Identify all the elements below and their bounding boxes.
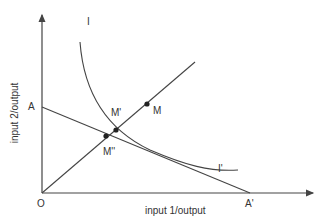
- point-m-prime: [113, 127, 118, 132]
- isoquant-diagram: I I' A A' O M M' M'' input 1/output inpu…: [0, 0, 321, 221]
- label-a: A: [28, 101, 35, 112]
- label-m-prime: M': [111, 107, 121, 118]
- label-isoquant-bottom: I': [218, 163, 223, 174]
- label-origin: O: [37, 198, 45, 209]
- label-m: M: [153, 105, 161, 116]
- label-isoquant-top: I: [87, 16, 90, 27]
- y-axis-label: input 2/output: [9, 82, 20, 143]
- x-axis-label: input 1/output: [145, 205, 206, 216]
- label-m-double-prime: M'': [103, 146, 115, 157]
- label-a-prime: A': [245, 198, 254, 209]
- isocost-line: [42, 107, 250, 193]
- point-m: [144, 101, 149, 106]
- ray-from-origin: [42, 62, 195, 193]
- point-m-double-prime: [103, 133, 108, 138]
